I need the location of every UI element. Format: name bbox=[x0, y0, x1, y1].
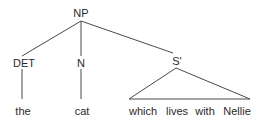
s-triangle bbox=[129, 68, 250, 99]
leaf-nellie: Nellie bbox=[223, 105, 251, 117]
node-s-bar: S' bbox=[172, 55, 181, 67]
node-det: DET bbox=[13, 57, 35, 69]
edge-np-s bbox=[81, 21, 173, 53]
edge-np-det bbox=[22, 21, 81, 56]
leaf-with: with bbox=[195, 105, 215, 117]
node-n: N bbox=[77, 57, 85, 69]
node-np: NP bbox=[73, 7, 88, 19]
leaf-cat: cat bbox=[75, 105, 90, 117]
leaf-the: the bbox=[15, 105, 30, 117]
tree-edges bbox=[0, 0, 264, 122]
leaf-lives: lives bbox=[166, 105, 188, 117]
leaf-which: which bbox=[129, 105, 157, 117]
